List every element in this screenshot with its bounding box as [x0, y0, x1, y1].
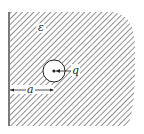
epsilon-label: ε — [38, 21, 44, 34]
charge-label: q — [72, 64, 79, 77]
point-charge — [52, 69, 55, 72]
distance-label: a — [27, 83, 34, 96]
dielectric-cavity-diagram: ε q a — [0, 0, 144, 134]
